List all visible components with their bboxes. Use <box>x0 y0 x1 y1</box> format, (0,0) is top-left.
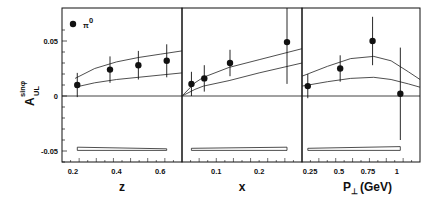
data-point <box>164 58 170 64</box>
systematic-band <box>191 147 287 150</box>
panel-3: 0.250.50.751P⊥(GeV) <box>302 8 420 196</box>
data-point <box>135 62 141 68</box>
y-axis-label <box>14 88 24 98</box>
theory-curve-upper <box>302 56 420 79</box>
systematic-band <box>308 147 401 151</box>
x-tick-label: 0.6 <box>155 167 165 176</box>
legend-marker-icon <box>70 21 76 27</box>
x-tick-label: 0.75 <box>361 167 376 176</box>
x-tick-label: 0.1 <box>211 167 221 176</box>
data-point <box>284 39 290 45</box>
x-tick-label: 1 <box>395 167 399 176</box>
data-point <box>397 91 403 97</box>
x-tick-label: 0.4 <box>111 167 122 176</box>
panel-1: 0.20.40.6z <box>62 8 182 194</box>
svg-text:A: A <box>23 97 37 106</box>
systematic-band <box>77 147 166 150</box>
x-tick-label: 0.25 <box>303 167 318 176</box>
data-point <box>188 81 194 87</box>
data-point <box>305 83 311 89</box>
data-point <box>74 82 80 88</box>
data-point <box>369 38 375 44</box>
x-axis-title: P <box>343 180 351 194</box>
x-tick-label: 0.2 <box>68 167 78 176</box>
data-point <box>337 65 343 71</box>
theory-curve-lower <box>75 73 182 87</box>
svg-text:0: 0 <box>89 16 93 25</box>
x-axis-title: x <box>239 180 246 194</box>
panel-2: 0.10.2x <box>182 8 302 194</box>
theory-curve-upper <box>182 49 302 96</box>
theory-curve-lower <box>302 77 420 87</box>
data-point <box>201 75 207 81</box>
asymmetry-chart: 0.050-0.05AsinφUL0.20.40.6z0.10.2x0.250.… <box>0 0 443 204</box>
svg-text:UL: UL <box>32 86 41 96</box>
x-tick-label: 0.2 <box>254 167 264 176</box>
data-point <box>107 66 113 72</box>
y-tick-label: 0 <box>54 92 58 101</box>
y-tick-label: -0.05 <box>41 147 58 156</box>
x-axis-title: z <box>119 180 125 194</box>
svg-text:⊥: ⊥ <box>351 187 358 196</box>
svg-text:(GeV): (GeV) <box>360 180 392 194</box>
y-tick-label: 0.05 <box>43 37 58 46</box>
x-tick-label: 0.5 <box>334 167 344 176</box>
legend: π0 <box>70 16 93 30</box>
data-point <box>227 60 233 66</box>
